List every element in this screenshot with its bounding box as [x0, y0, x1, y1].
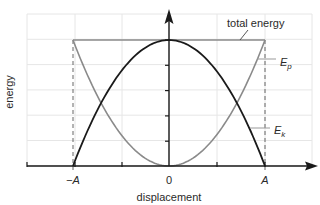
x-tick-label-a: A — [260, 174, 268, 186]
total-energy-label: total energy — [227, 17, 285, 29]
x-axis-label: displacement — [137, 191, 202, 203]
ek-label-sub: k — [281, 130, 286, 139]
ep-label: Ep — [280, 56, 292, 71]
label-leader-lines — [240, 30, 276, 128]
x-tick-label-zero: 0 — [166, 174, 172, 186]
ek-label: Ek — [274, 124, 286, 139]
ep-label-sub: p — [286, 62, 292, 71]
x-tick-label-neg-a: −A — [66, 174, 80, 186]
y-axis-label: energy — [3, 75, 15, 109]
labels: energy displacement −A 0 A total energy … — [3, 17, 292, 203]
total-energy-leader — [240, 30, 248, 40]
energy-displacement-chart: energy displacement −A 0 A total energy … — [0, 0, 320, 205]
